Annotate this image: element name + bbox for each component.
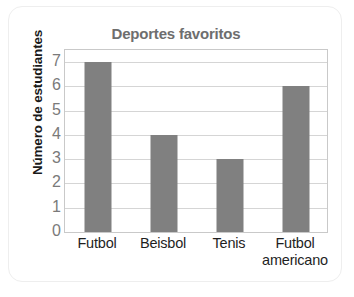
y-axis-tick-4: 4	[39, 126, 61, 142]
bar-slot	[65, 50, 131, 232]
x-label-line: americano	[250, 252, 340, 269]
x-label-line: Futbol	[77, 235, 116, 251]
x-label-line: Tenis	[213, 235, 246, 251]
y-axis-tick-1: 1	[39, 199, 61, 215]
bar-beisbol[interactable]	[151, 135, 178, 232]
bar-tenis[interactable]	[217, 159, 244, 232]
x-axis-category-labels: FutbolBeisbolTenisFutbolamericano	[64, 235, 328, 283]
bar-slot	[197, 50, 263, 232]
x-label-futbol-americano: Futbolamericano	[250, 235, 340, 269]
bars-group	[65, 50, 327, 232]
y-axis-tick-labels: 76543210	[39, 47, 61, 233]
bar-slot	[263, 50, 329, 232]
chart-title: Deportes favoritos	[9, 25, 343, 42]
bar-futbol[interactable]	[85, 62, 112, 232]
x-label-line: Futbol	[275, 235, 314, 251]
y-axis-tick-7: 7	[39, 53, 61, 69]
y-axis-tick-5: 5	[39, 102, 61, 118]
bar-futbol-americano[interactable]	[283, 86, 310, 232]
plot-area	[64, 49, 328, 233]
y-axis-tick-3: 3	[39, 150, 61, 166]
y-axis-tick-2: 2	[39, 174, 61, 190]
bar-slot	[131, 50, 197, 232]
y-axis-tick-6: 6	[39, 77, 61, 93]
x-label-line: Beisbol	[140, 235, 186, 251]
chart-card: Deportes favoritos Número de estudiantes…	[8, 6, 342, 282]
